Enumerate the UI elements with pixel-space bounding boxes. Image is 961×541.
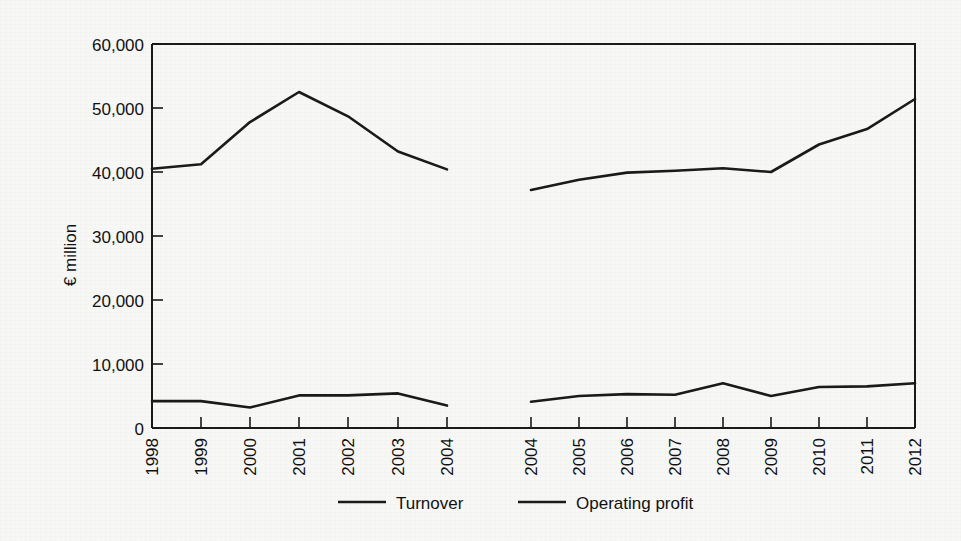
- x-tick-label: 2005: [570, 438, 589, 476]
- series-line-operating-profit: [531, 383, 915, 402]
- x-tick-label: 2011: [858, 438, 877, 475]
- y-tick-label: 50,000: [92, 100, 144, 119]
- plot-frame: [152, 44, 915, 428]
- x-tick-label: 2006: [618, 438, 637, 476]
- x-tick-label: 2012: [906, 438, 925, 476]
- chart-figure: 60,000 50,000 40,000 30,000 20,000 10,00…: [0, 0, 961, 541]
- legend-label-operating-profit: Operating profit: [576, 494, 693, 513]
- x-axis-tick-labels-panel-right: 2004 2005 2006 2007 2008 2009 2010 2011 …: [522, 438, 925, 476]
- x-tick-label: 2003: [389, 438, 408, 476]
- series-line-turnover: [152, 92, 447, 169]
- x-tick-label: 2007: [666, 438, 685, 476]
- x-tick-label: 2000: [241, 438, 260, 476]
- x-tick-label: 2002: [339, 438, 358, 476]
- x-tick-label: 2004: [438, 438, 457, 476]
- y-tick-label: 20,000: [92, 292, 144, 311]
- x-tick-label: 1998: [143, 438, 162, 476]
- chart-legend: Turnover Operating profit: [338, 494, 693, 513]
- y-tick-label: 60,000: [92, 36, 144, 55]
- series-line-turnover: [531, 99, 915, 190]
- x-axis-ticks-panel-right: [531, 417, 915, 428]
- y-axis-tick-labels: 60,000 50,000 40,000 30,000 20,000 10,00…: [92, 36, 144, 439]
- legend-label-turnover: Turnover: [396, 494, 464, 513]
- data-series-layer: [152, 92, 915, 408]
- x-tick-label: 2008: [714, 438, 733, 476]
- x-axis-tick-labels-panel-left: 1998 1999 2000 2001 2002 2003 2004: [143, 438, 457, 476]
- x-tick-label: 2010: [810, 438, 829, 476]
- line-chart: 60,000 50,000 40,000 30,000 20,000 10,00…: [0, 0, 961, 541]
- y-tick-label: 30,000: [92, 228, 144, 247]
- series-line-operating-profit: [152, 393, 447, 407]
- x-tick-label: 2009: [762, 438, 781, 476]
- y-axis-title: € million: [61, 224, 80, 286]
- y-tick-label: 40,000: [92, 164, 144, 183]
- plot-border-top-right: [152, 44, 915, 428]
- y-tick-label: 10,000: [92, 356, 144, 375]
- y-tick-label: 0: [135, 420, 144, 439]
- x-axis-ticks-panel-left: [152, 417, 447, 428]
- x-tick-label: 1999: [192, 438, 211, 476]
- y-axis-ticks: [152, 44, 163, 428]
- x-tick-label: 2001: [290, 438, 309, 476]
- x-tick-label: 2004: [522, 438, 541, 476]
